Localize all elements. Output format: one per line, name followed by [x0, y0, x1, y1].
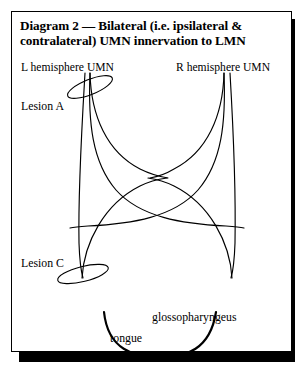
- tract-left-ipsilateral: [79, 73, 85, 278]
- diagram-figure: Diagram 2 — Bilateral (i.e. ipsilateral …: [0, 0, 307, 377]
- diagram-panel-inner: Diagram 2 — Bilateral (i.e. ipsilateral …: [12, 12, 291, 351]
- tract-drawing: [12, 12, 293, 353]
- tongue-glossopharyngeus-arc: [104, 312, 216, 353]
- tract-right-contralateral: [70, 73, 224, 228]
- diagram-panel: Diagram 2 — Bilateral (i.e. ipsilateral …: [11, 11, 292, 352]
- tract-left-lower-sweep: [82, 178, 167, 278]
- tract-right-lower-sweep: [148, 178, 232, 278]
- tract-left-contralateral: [90, 73, 244, 228]
- tract-right-ipsilateral: [230, 73, 235, 278]
- tract-left-upper-sweep: [90, 73, 168, 178]
- tract-right-upper-sweep: [150, 73, 224, 178]
